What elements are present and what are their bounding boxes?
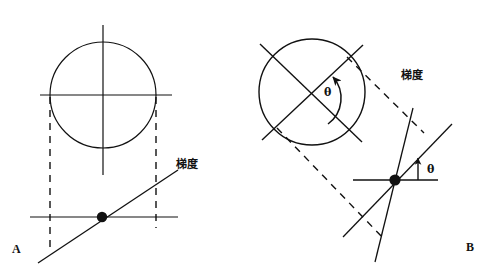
panel-a-label: A	[12, 242, 21, 257]
canvas-background	[0, 0, 491, 270]
panel-a-gradient-label: 梯度	[176, 155, 198, 171]
panel-b-gradient-label: 梯度	[401, 66, 423, 82]
panel-a-point-marker	[97, 212, 107, 222]
panel-b-theta-rotation-label: θ	[324, 86, 331, 99]
panel-b-theta-slope-label: θ	[427, 163, 434, 176]
figure-canvas	[0, 0, 491, 270]
panel-b-point-marker	[389, 174, 400, 185]
panel-b-label: B	[466, 240, 475, 255]
